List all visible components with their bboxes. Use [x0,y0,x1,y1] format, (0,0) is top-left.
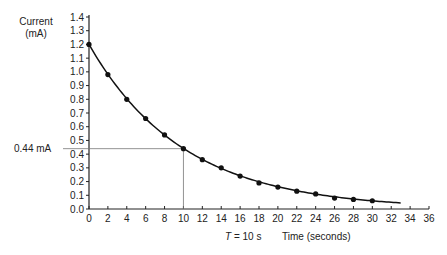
x-tick-label: 28 [348,213,360,224]
y-tick-label: 1.4 [70,12,84,23]
x-tick-label: 16 [235,213,247,224]
x-tick-label: 10 [178,213,190,224]
x-tick-label: 8 [162,213,168,224]
y-tick-label: 0.1 [70,190,84,201]
y-tick-label: 0.8 [70,94,84,105]
data-point [351,197,356,202]
y-tick-label: 0.2 [70,176,84,187]
y-axis-label-line2: (mA) [25,28,47,39]
y-axis-ticks: 0.00.10.20.30.40.50.60.70.80.91.01.11.21… [70,12,89,215]
x-tick-label: 18 [253,213,265,224]
hline-label: 0.44 mA [14,143,52,154]
decay-curve [89,44,401,203]
data-point [143,116,148,121]
data-point [275,184,280,189]
x-tick-label: 22 [291,213,303,224]
x-tick-label: 6 [143,213,149,224]
x-tick-label: 2 [105,213,111,224]
y-tick-label: 1.0 [70,66,84,77]
data-point [219,165,224,170]
data-point [238,173,243,178]
data-points [86,42,375,204]
y-tick-label: 1.3 [70,25,84,36]
y-tick-label: 0.9 [70,80,84,91]
y-tick-label: 0.3 [70,162,84,173]
data-point [162,132,167,137]
x-tick-label: 4 [124,213,130,224]
x-axis-label: Time (seconds) [282,231,351,242]
data-point [86,42,91,47]
y-tick-label: 0.7 [70,108,84,119]
x-tick-label: 30 [367,213,379,224]
data-point [294,189,299,194]
data-point [332,195,337,200]
y-tick-label: 0.4 [70,149,84,160]
vline-label: T = 10 s [225,231,261,242]
vline-label-value: = 10 s [231,231,261,242]
y-axis-label-line1: Current [19,16,53,27]
data-point [200,157,205,162]
data-point [313,191,318,196]
x-tick-label: 0 [86,213,92,224]
data-point [370,198,375,203]
y-tick-label: 0.0 [70,204,84,215]
x-tick-label: 34 [405,213,417,224]
x-tick-label: 24 [310,213,322,224]
x-tick-label: 12 [197,213,209,224]
y-tick-label: 0.6 [70,121,84,132]
data-point [256,180,261,185]
data-point [181,146,186,151]
chart-canvas: 0.00.10.20.30.40.50.60.70.80.91.01.11.21… [0,0,447,255]
y-tick-label: 0.5 [70,135,84,146]
x-tick-label: 14 [216,213,228,224]
y-tick-label: 1.1 [70,53,84,64]
data-point [124,97,129,102]
y-tick-label: 1.2 [70,39,84,50]
x-tick-label: 20 [272,213,284,224]
x-tick-label: 32 [386,213,398,224]
data-point [105,72,110,77]
x-tick-label: 26 [329,213,341,224]
x-tick-label: 36 [423,213,435,224]
